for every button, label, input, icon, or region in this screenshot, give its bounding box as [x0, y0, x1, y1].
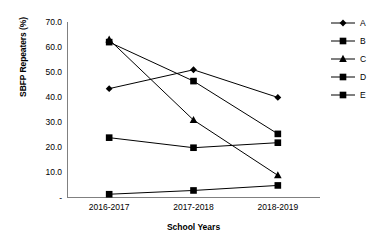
data-series-layer: [105, 35, 281, 197]
legend-label: D: [356, 73, 366, 82]
legend-item-a[interactable]: A: [330, 14, 380, 32]
data-point-b-1: [190, 78, 197, 85]
y-tick-label: 30.0: [28, 118, 62, 127]
legend-item-d[interactable]: D: [330, 68, 380, 86]
x-tick-label: 2016-2017: [64, 202, 154, 212]
data-point-e-0: [106, 191, 113, 198]
legend-label: B: [356, 37, 366, 46]
legend-label: C: [356, 55, 366, 64]
data-point-c-2: [274, 171, 282, 178]
y-tick-label: 10.0: [28, 168, 62, 177]
plot-area: [67, 22, 320, 198]
data-point-d-2: [275, 139, 282, 146]
data-point-e-2: [275, 182, 282, 189]
data-point-a-1: [190, 66, 197, 73]
x-tick-label: 2018-2019: [233, 202, 323, 212]
y-tick-label: 70.0: [28, 18, 62, 27]
legend-item-b[interactable]: B: [330, 32, 380, 50]
legend-item-c[interactable]: C: [330, 50, 380, 68]
data-point-e-1: [190, 187, 197, 194]
y-tick-label: 50.0: [28, 68, 62, 77]
x-axis-tick-labels: 2016-20172017-20182018-2019: [67, 202, 320, 218]
axis-lines: [67, 22, 320, 198]
x-tick-label: 2017-2018: [149, 202, 239, 212]
chart-legend: ABCDE: [330, 14, 380, 104]
data-point-d-0: [106, 134, 113, 141]
line-chart: SBFP Repeaters (%) -10.020.030.040.050.0…: [0, 0, 382, 249]
data-point-a-0: [106, 85, 113, 92]
y-tick-label: 40.0: [28, 93, 62, 102]
square-marker-icon: [330, 34, 356, 48]
y-axis-tick-labels: -10.020.030.040.050.060.070.0: [26, 0, 62, 249]
y-tick-label: 60.0: [28, 43, 62, 52]
data-point-a-2: [274, 94, 281, 101]
legend-item-e[interactable]: E: [330, 86, 380, 104]
y-tick-label: 20.0: [28, 143, 62, 152]
data-point-d-1: [190, 144, 197, 151]
plot-svg: [67, 22, 320, 198]
x-axis-title: School Years: [67, 222, 320, 232]
triangle-marker-icon: [330, 52, 356, 66]
legend-label: E: [356, 91, 366, 100]
square-marker-icon: [330, 70, 356, 84]
square-marker-icon: [330, 88, 356, 102]
legend-label: A: [356, 19, 366, 28]
data-point-b-2: [275, 131, 282, 138]
diamond-marker-icon: [330, 16, 356, 30]
y-tick-label: -: [28, 194, 62, 203]
